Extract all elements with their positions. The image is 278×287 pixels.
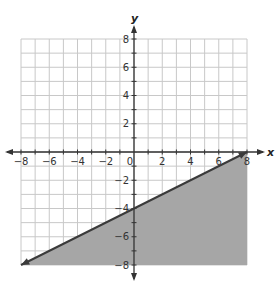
x-axis-left-arrow-icon [5, 149, 13, 155]
x-axis-label: x [266, 146, 275, 159]
x-tick-label: 4 [187, 156, 193, 167]
x-tick-label: 2 [159, 156, 165, 167]
y-tick-label: −6 [114, 231, 129, 242]
x-tick-label: 0 [127, 156, 133, 167]
y-tick-label: 8 [123, 34, 129, 45]
coordinate-plane: −8−6−4−2024688642−2−4−6−8 x y [0, 0, 278, 287]
y-axis-up-arrow-icon [131, 25, 137, 33]
y-tick-label: −2 [114, 175, 129, 186]
x-tick-label: −4 [70, 156, 85, 167]
y-tick-label: 2 [123, 118, 129, 129]
y-tick-label: −8 [114, 260, 129, 271]
x-tick-label: −6 [42, 156, 57, 167]
y-axis-down-arrow-icon [131, 273, 137, 281]
x-tick-label: −2 [98, 156, 113, 167]
y-tick-label: 6 [123, 62, 129, 73]
x-tick-label: 8 [244, 156, 250, 167]
x-tick-label: −8 [14, 156, 29, 167]
y-tick-label: 4 [123, 90, 129, 101]
y-axis-label: y [131, 12, 139, 25]
x-axis-right-arrow-icon [257, 149, 265, 155]
